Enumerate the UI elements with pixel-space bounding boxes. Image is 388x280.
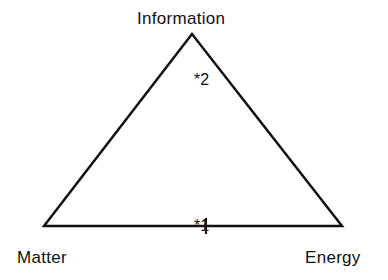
triangle-diagram: Information Matter Energy *2 *1 <box>0 0 388 280</box>
marker-2: *2 <box>194 72 209 88</box>
vertex-label-information: Information <box>137 10 225 27</box>
marker-1: *1 <box>194 218 209 234</box>
vertex-label-matter: Matter <box>17 249 67 266</box>
vertex-label-energy: Energy <box>305 249 361 266</box>
triangle-outline <box>44 34 342 226</box>
triangle-shape <box>0 0 388 280</box>
